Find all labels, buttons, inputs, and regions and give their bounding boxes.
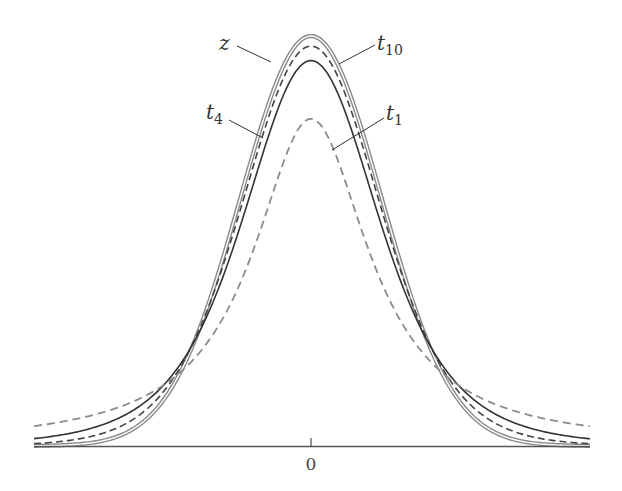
zero-tick-label: 0 xyxy=(306,454,317,474)
t4-label: t4 xyxy=(206,100,223,127)
t10-label-sub: 10 xyxy=(385,42,403,58)
z-curve-inner xyxy=(34,36,590,446)
t1-label-sub: 1 xyxy=(394,112,403,128)
density-curves xyxy=(34,36,590,446)
t10-curve xyxy=(34,46,590,444)
t1-curve xyxy=(34,119,590,426)
z-leader xyxy=(237,46,271,62)
t4-label-sub: 4 xyxy=(214,111,223,127)
z-label: z xyxy=(218,31,230,55)
t4-leader xyxy=(229,120,263,138)
t4-curve xyxy=(34,61,590,439)
z-curve-outer xyxy=(34,36,590,446)
t1-label: t1 xyxy=(386,101,403,128)
t10-label: t10 xyxy=(377,31,403,58)
t10-leader xyxy=(339,45,375,64)
t-distribution-chart: 0 z t10 t4 t1 xyxy=(0,0,622,491)
